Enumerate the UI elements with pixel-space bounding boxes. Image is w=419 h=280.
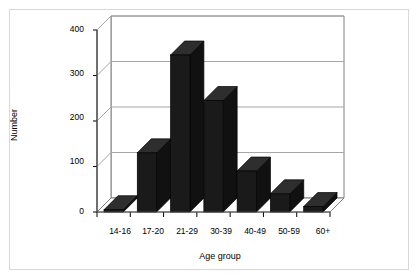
bar-front-face	[204, 101, 223, 212]
ytick-label-300: 300	[60, 68, 84, 78]
bar-side-face	[223, 87, 237, 212]
xtick-label-60plus: 60+	[302, 226, 344, 236]
bar-front-face	[137, 153, 156, 212]
y-axis-title: Number	[9, 95, 19, 155]
ytick-label-400: 400	[60, 24, 84, 34]
bar-17-20[interactable]	[137, 139, 170, 212]
bar-front-face	[270, 194, 289, 212]
ytick-label-100: 100	[60, 156, 84, 166]
ytick-label-200: 200	[60, 112, 84, 122]
bar-side-face	[190, 41, 204, 212]
bar-21-29[interactable]	[171, 41, 204, 212]
bar-front-face	[237, 171, 256, 212]
bar-front-face	[304, 207, 323, 212]
bar-30-39[interactable]	[204, 87, 237, 212]
chart-screenshot: 400 300 200 100 0 14-16 17-20 21-29 30-3…	[0, 0, 419, 280]
bar-chart-canvas	[0, 0, 419, 280]
ytick-label-0: 0	[60, 206, 84, 216]
bar-front-face	[171, 55, 190, 212]
x-axis-title: Age group	[150, 251, 290, 261]
